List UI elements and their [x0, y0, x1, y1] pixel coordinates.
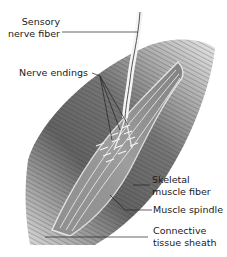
muscle-spindle-diagram: Sensory nerve fiber Nerve endings Skelet… — [0, 0, 227, 257]
label-nerve-endings: Nerve endings — [0, 67, 88, 79]
label-connective-tissue-sheath: Connective tissue sheath — [153, 225, 217, 249]
label-sensory-nerve-fiber: Sensory nerve fiber — [2, 16, 60, 40]
label-muscle-spindle: Muscle spindle — [153, 204, 223, 216]
label-skeletal-muscle-fiber: Skeletal muscle fiber — [152, 174, 211, 198]
